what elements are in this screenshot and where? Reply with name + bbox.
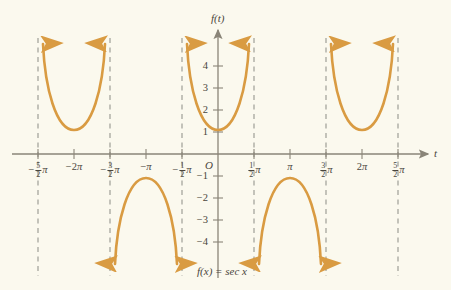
y-axis-label: f(t) [211, 13, 224, 24]
xtick-5-2-pi: 52π [391, 162, 404, 179]
xtick-3-2-pi: 32π [319, 162, 332, 179]
secant-function-figure: f(t) t O 4321−1−2−3−4 −52π−2π−32π−π−12π1… [0, 0, 451, 290]
xtick-minus-3-2-pi: −32π [100, 162, 119, 179]
ytick-minus-3: −3 [186, 215, 208, 226]
curve-branch-pi [259, 178, 321, 264]
xtick-pi: π [287, 162, 292, 173]
ytick-minus-2: −2 [186, 193, 208, 204]
ytick-4: 4 [186, 61, 208, 72]
ytick-minus-4: −4 [186, 237, 208, 248]
xtick-1-2-pi: 12π [247, 162, 260, 179]
x-axis-label: t [434, 148, 437, 159]
ytick-1: 1 [186, 127, 208, 138]
figure-caption: f(x) = sec x [197, 266, 247, 277]
xtick-minus-5-2-pi: −52π [28, 162, 47, 179]
ytick-2: 2 [186, 105, 208, 116]
ytick-3: 3 [186, 83, 208, 94]
curve-branch-2pi [331, 44, 393, 130]
xtick-minus-2pi: −2π [66, 162, 82, 173]
plot-canvas [0, 0, 451, 290]
xtick-minus-1-2-pi: −12π [172, 162, 191, 179]
xtick-2pi: 2π [357, 162, 368, 173]
curve-branch-minus-pi [115, 178, 177, 264]
xtick-minus-pi: −π [140, 162, 151, 173]
curve-branch-minus-2pi [43, 44, 105, 130]
